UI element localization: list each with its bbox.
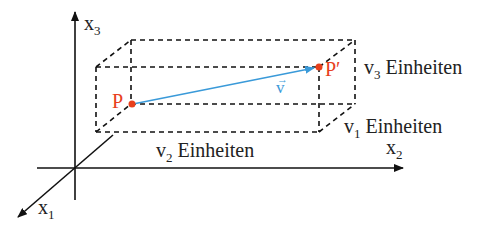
x1-axis-label: x1 [38, 196, 55, 223]
vector-diagram: x3 x2 x1 P P′ → v v3 Einheiten v1 Einhei… [0, 0, 482, 231]
point-p-dot [129, 101, 136, 108]
x3-axis-label: x3 [84, 12, 101, 39]
point-p-prime-dot [316, 64, 323, 71]
point-p-label: P [112, 90, 123, 113]
dimension-v2-label: v2 Einheiten [156, 139, 254, 166]
dimension-v3-label: v3 Einheiten [364, 56, 462, 83]
vector-v-label: → v [276, 74, 288, 96]
point-p-prime-label: P′ [325, 58, 341, 81]
dimension-v1-label: v1 Einheiten [344, 115, 442, 142]
x1-axis [18, 135, 113, 217]
